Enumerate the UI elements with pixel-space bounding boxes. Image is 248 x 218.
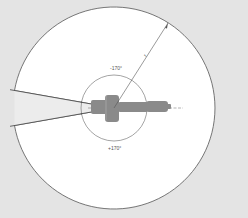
angle-label-negative: -170°: [110, 65, 122, 71]
diagram-canvas: r -170° +170°: [0, 0, 248, 218]
angle-label-positive: +170°: [108, 145, 121, 151]
workspace-diagram: r -170° +170°: [0, 0, 248, 218]
limit-tick-positive: [81, 113, 83, 115]
limit-tick-negative: [81, 102, 83, 104]
